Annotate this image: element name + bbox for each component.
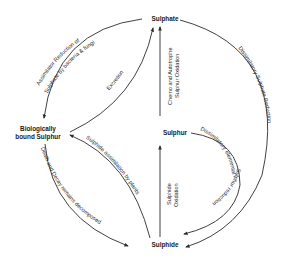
node-sulphate: Sulphate (152, 15, 179, 23)
label-dissimilatory-elemental-line1: Dissimilatory elemental (200, 126, 238, 175)
label-chemo-line1: Chemo and Autotrophe (167, 47, 173, 105)
label-sulphide-oxidation-line2: Oxidation (173, 183, 179, 207)
arrow-sulphide-assimilation (70, 135, 150, 238)
label-sulphide-oxidation-line1: Sulphide (166, 183, 172, 205)
diagram-canvas: Sulphate Biologically bound Sulphur Sulp… (0, 0, 296, 262)
label-dissimilatory-elemental-line2: Sulphur reduction (211, 168, 242, 207)
label-dissimilatory-sulphate: Dissimilatory Sulphate Reduction (237, 45, 272, 124)
label-chemo-line2: Sulphur Oxidation (174, 54, 180, 98)
node-biologically-bound-line1: Biologically (20, 125, 56, 133)
node-biologically-bound-line2: bound Sulphur (15, 133, 61, 141)
node-sulphur: Sulphur (163, 129, 188, 137)
sulphur-cycle-diagram: Sulphate Biologically bound Sulphur Sulp… (0, 0, 296, 262)
label-excretion: Excretion (105, 69, 124, 91)
label-death-decay: Death and Decay remains decomposed (40, 146, 102, 225)
node-sulphide: Sulphide (152, 241, 179, 249)
